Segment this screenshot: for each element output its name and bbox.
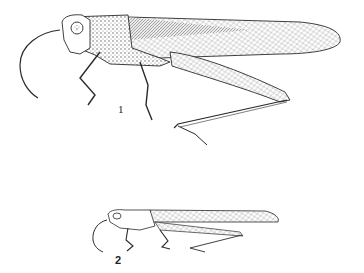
grasshopper-figure-2 (0, 0, 364, 273)
figure-label-2: 2 (115, 254, 121, 266)
illustration-plate: 1 2 (0, 0, 364, 273)
